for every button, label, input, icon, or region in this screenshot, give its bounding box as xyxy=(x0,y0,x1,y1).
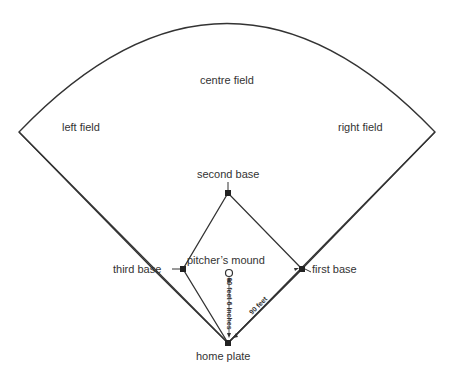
foul-line-left xyxy=(19,132,228,343)
second-base-marker xyxy=(225,190,231,196)
label-mound-distance: 60 feet 6 inches xyxy=(226,277,233,329)
label-third-base: third base xyxy=(113,263,161,275)
label-second-base: second base xyxy=(197,168,259,180)
label-right-field: right field xyxy=(338,121,383,133)
label-pitchers-mound: pitcher’s mound xyxy=(187,254,265,266)
infield-diamond xyxy=(183,193,302,343)
label-home-plate: home plate xyxy=(196,350,250,362)
pitchers-mound-marker xyxy=(226,270,233,277)
home-plate-marker xyxy=(225,340,231,346)
label-first-base: first base xyxy=(312,263,357,275)
first-base-marker xyxy=(299,266,305,272)
label-centre-field: centre field xyxy=(200,74,254,86)
label-left-field: left field xyxy=(62,121,100,133)
third-base-marker xyxy=(180,266,186,272)
